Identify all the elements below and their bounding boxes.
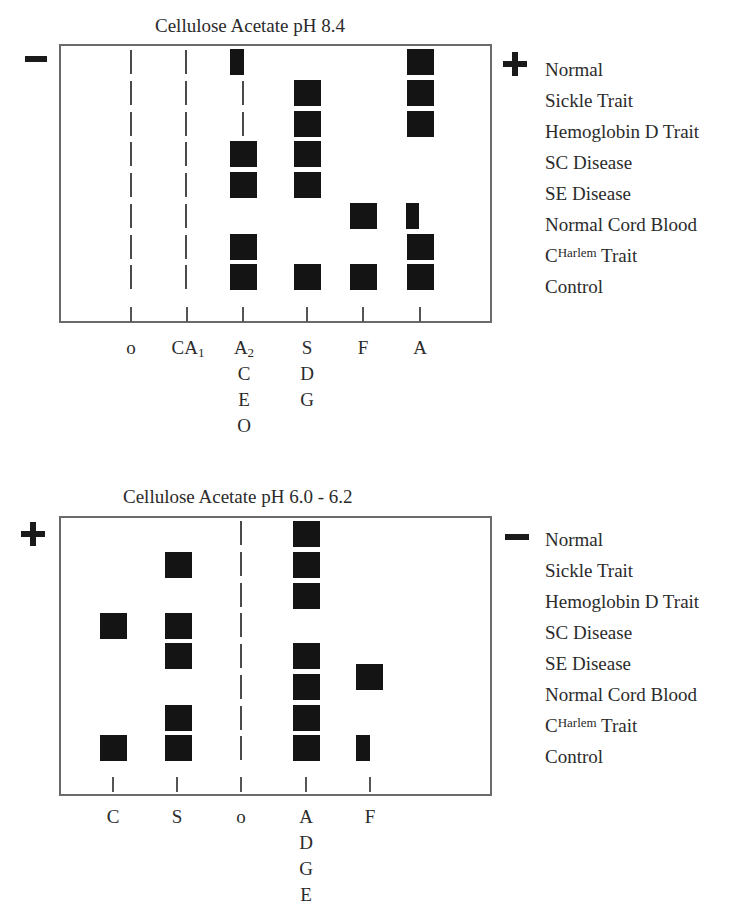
band-charlem-a xyxy=(407,234,434,260)
legend-sc-disease: SC Disease xyxy=(545,617,699,648)
col-label-s: S xyxy=(157,804,197,830)
col-label-f: F xyxy=(350,804,390,830)
col-label-a2: A2 C E O xyxy=(224,335,264,439)
legend-cord-blood: Normal Cord Blood xyxy=(545,209,699,240)
top-panel-title: Cellulose Acetate pH 8.4 xyxy=(155,15,345,37)
band-sc-s xyxy=(294,141,321,167)
col-label-c: C xyxy=(93,804,133,830)
band-control-a xyxy=(407,264,434,290)
band-cord-f xyxy=(350,203,377,229)
tick-a2 xyxy=(242,307,244,322)
band-se-a xyxy=(293,643,320,669)
band-normal-a2 xyxy=(230,49,244,75)
tick-o xyxy=(130,307,132,322)
tick-s xyxy=(176,777,178,792)
band-sickle-s xyxy=(294,80,321,106)
band-normal-a xyxy=(407,49,434,75)
tick-c xyxy=(112,777,114,792)
band-charlem-a2 xyxy=(230,234,257,260)
legend-hb-d-trait: Hemoglobin D Trait xyxy=(545,586,699,617)
legend-control: Control xyxy=(545,271,699,302)
band-se-s xyxy=(294,172,321,198)
legend-cord-blood: Normal Cord Blood xyxy=(545,679,699,710)
band-control-s xyxy=(294,264,321,290)
legend-normal: Normal xyxy=(545,524,699,555)
col-label-a: A D G E xyxy=(286,804,326,908)
band-control-c xyxy=(100,735,127,761)
legend-sickle-trait: Sickle Trait xyxy=(545,555,699,586)
band-cord-a xyxy=(406,203,419,229)
legend-se-disease: SE Disease xyxy=(545,178,699,209)
plus-icon xyxy=(503,52,527,76)
legend-hb-d-trait: Hemoglobin D Trait xyxy=(545,116,699,147)
band-charlem-s xyxy=(165,705,192,731)
band-cord-f xyxy=(356,664,383,690)
band-d-a xyxy=(293,583,320,609)
band-se-s xyxy=(165,643,192,669)
band-control-a2 xyxy=(230,264,257,290)
band-control-s xyxy=(165,735,192,761)
tick-ca1 xyxy=(186,307,188,322)
legend-sickle-trait: Sickle Trait xyxy=(545,85,699,116)
tick-a xyxy=(419,307,421,322)
bottom-legend: Normal Sickle Trait Hemoglobin D Trait S… xyxy=(545,524,699,772)
minus-icon xyxy=(25,55,47,63)
tick-s xyxy=(306,307,308,322)
tick-a xyxy=(305,777,307,792)
band-control-f xyxy=(356,735,370,761)
band-normal-a xyxy=(293,521,320,547)
col-label-ca1: CA1 xyxy=(166,335,210,361)
band-sc-a2 xyxy=(230,141,257,167)
band-d-s xyxy=(294,111,321,137)
tick-f xyxy=(362,307,364,322)
tick-o xyxy=(240,777,242,792)
band-charlem-a xyxy=(293,705,320,731)
band-sickle-a xyxy=(293,552,320,578)
band-sc-s xyxy=(165,613,192,639)
legend-control: Control xyxy=(545,741,699,772)
band-sc-c xyxy=(100,613,127,639)
legend-charlem-trait: CHarlem Trait xyxy=(545,710,699,741)
minus-icon xyxy=(505,534,529,540)
col-label-o: o xyxy=(221,804,261,830)
col-label-f: F xyxy=(343,335,383,361)
legend-normal: Normal xyxy=(545,54,699,85)
band-d-a xyxy=(407,111,434,137)
col-label-a: A xyxy=(400,335,440,361)
band-control-f xyxy=(350,264,377,290)
legend-sc-disease: SC Disease xyxy=(545,147,699,178)
col-label-s: S D G xyxy=(287,335,327,413)
col-label-o: o xyxy=(111,335,151,361)
band-sickle-a xyxy=(407,80,434,106)
plus-icon xyxy=(21,522,45,546)
tick-f xyxy=(369,777,371,792)
bottom-panel-title: Cellulose Acetate pH 6.0 - 6.2 xyxy=(123,486,353,508)
band-se-a2 xyxy=(230,172,257,198)
legend-se-disease: SE Disease xyxy=(545,648,699,679)
top-legend: Normal Sickle Trait Hemoglobin D Trait S… xyxy=(545,54,699,302)
band-sickle-s xyxy=(165,552,192,578)
legend-charlem-trait: CHarlem Trait xyxy=(545,240,699,271)
band-cord-a xyxy=(293,674,320,700)
band-control-a xyxy=(293,735,320,761)
